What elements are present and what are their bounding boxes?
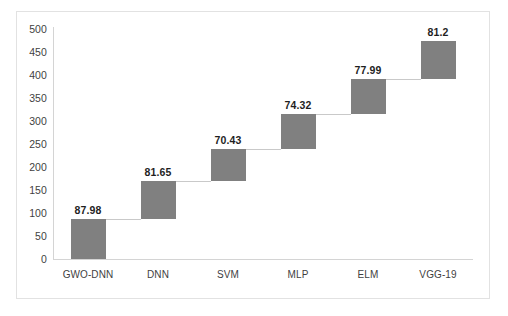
y-axis-line [53, 27, 54, 259]
bar-elm[interactable] [351, 79, 386, 115]
y-axis-tick-label: 200 [17, 161, 47, 173]
x-axis-label-dnn: DNN [147, 269, 169, 280]
data-label: 81.2 [428, 26, 449, 38]
x-axis-label-vgg-19: VGG-19 [419, 269, 456, 280]
connector-line [106, 219, 141, 220]
bar-mlp[interactable] [281, 114, 316, 148]
y-axis-tick-label: 350 [17, 92, 47, 104]
y-axis-tick-label: 500 [17, 23, 47, 35]
connector-line [246, 149, 281, 150]
x-axis-label-mlp: MLP [288, 269, 309, 280]
data-label: 74.32 [285, 99, 312, 111]
y-axis-tick-label: 150 [17, 184, 47, 196]
data-label: 81.65 [145, 166, 172, 178]
connector-line [316, 114, 351, 115]
connector-line [176, 181, 211, 182]
x-axis-line [53, 259, 473, 260]
x-axis-label-elm: ELM [358, 269, 379, 280]
chart-frame: 500450400350300250200150100500 87.9881.6… [16, 11, 490, 299]
x-axis-label-svm: SVM [217, 269, 239, 280]
y-axis-tick-label: 50 [17, 230, 47, 242]
connector-line [386, 79, 421, 80]
y-axis-tick-label: 450 [17, 46, 47, 58]
plot-area: 500450400350300250200150100500 87.9881.6… [17, 12, 489, 298]
data-label: 70.43 [215, 134, 242, 146]
data-label: 87.98 [75, 204, 102, 216]
bar-svm[interactable] [211, 149, 246, 181]
data-label: 77.99 [355, 64, 382, 76]
bar-dnn[interactable] [141, 181, 176, 219]
bar-gwo-dnn[interactable] [71, 219, 106, 259]
y-axis-tick-label: 300 [17, 115, 47, 127]
x-axis-label-gwo-dnn: GWO-DNN [63, 269, 114, 280]
y-axis-tick-label: 100 [17, 207, 47, 219]
y-axis-tick-labels: 500450400350300250200150100500 [17, 12, 47, 298]
y-axis-tick-label: 400 [17, 69, 47, 81]
y-axis-tick-label: 0 [17, 253, 47, 265]
bar-vgg-19[interactable] [421, 41, 456, 78]
y-axis-tick-label: 250 [17, 138, 47, 150]
